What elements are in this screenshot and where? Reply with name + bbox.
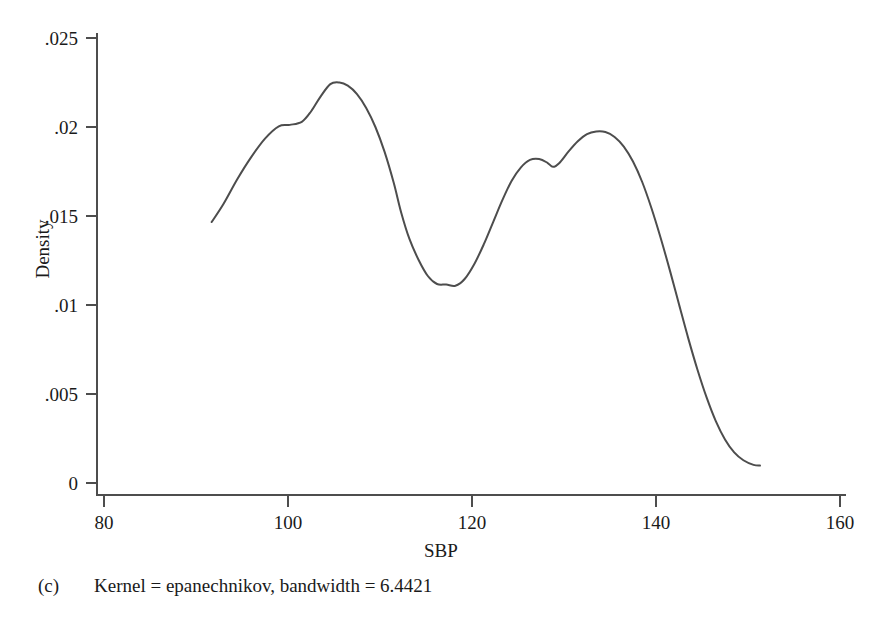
x-axis-tick-label: 100 [274, 513, 303, 532]
y-axis-ticks [86, 38, 97, 483]
panel-letter: (c) [38, 575, 59, 597]
x-axis-title: SBP [424, 540, 458, 562]
density-curve-line [212, 82, 760, 465]
y-axis-tick-label: .025 [0, 29, 78, 48]
y-axis-tick-label: .02 [0, 118, 78, 137]
kernel-density-figure: 0.005.01.015.02.025 80100120140160 Densi… [0, 0, 894, 634]
x-axis-tick-label: 80 [95, 513, 114, 532]
y-axis-tick-label: .005 [0, 385, 78, 404]
x-axis-tick-label: 160 [826, 513, 855, 532]
x-axis-ticks [104, 495, 840, 507]
figure-caption-text: Kernel = epanechnikov, bandwidth = 6.442… [94, 575, 432, 597]
x-axis-tick-label: 120 [458, 513, 487, 532]
y-axis-tick-label: 0 [0, 474, 78, 493]
axes-group [96, 33, 846, 495]
plot-canvas [0, 0, 894, 634]
y-axis-title: Density [32, 199, 54, 299]
x-axis-tick-label: 140 [642, 513, 671, 532]
figure-caption-row: (c) Kernel = epanechnikov, bandwidth = 6… [0, 575, 894, 601]
